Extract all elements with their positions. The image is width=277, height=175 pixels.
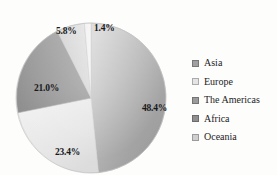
legend-item-asia[interactable]: Asia: [192, 55, 276, 71]
legend-item-europe[interactable]: Europe: [192, 74, 276, 90]
slice-label-oceania: 1.4%: [94, 23, 115, 33]
legend-swatch-asia: [192, 60, 199, 67]
legend-item-the-americas[interactable]: The Americas: [192, 92, 276, 108]
slice-label-africa: 5.8%: [56, 26, 77, 36]
pie-svg: [14, 19, 170, 175]
slice-label-asia: 48.4%: [142, 103, 167, 113]
chart-legend: Asia Europe The Americas Africa Oceania: [192, 55, 276, 148]
legend-swatch-europe: [192, 78, 199, 85]
legend-swatch-africa: [192, 115, 199, 122]
legend-swatch-oceania: [192, 134, 199, 141]
legend-item-africa[interactable]: Africa: [192, 111, 276, 127]
legend-item-oceania[interactable]: Oceania: [192, 129, 276, 145]
legend-label-europe: Europe: [204, 77, 233, 87]
legend-label-africa: Africa: [204, 114, 230, 124]
legend-swatch-the-americas: [192, 97, 199, 104]
pie-chart-figure: 48.4% 23.4% 21.0% 5.8% 1.4% Asia Europe …: [0, 0, 277, 175]
legend-label-the-americas: The Americas: [204, 95, 260, 105]
pie-chart-plot: 48.4% 23.4% 21.0% 5.8% 1.4%: [14, 19, 170, 175]
legend-label-oceania: Oceania: [204, 132, 237, 142]
pie-shading-overlay: [16, 23, 166, 173]
legend-label-asia: Asia: [204, 58, 222, 68]
slice-label-europe: 23.4%: [55, 147, 80, 157]
slice-label-the-americas: 21.0%: [34, 83, 59, 93]
